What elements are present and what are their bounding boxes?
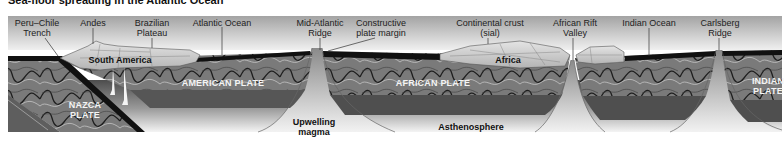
label-brazilian-plateau: Brazilian Plateau [135,18,170,38]
label-line: Mid-Atlantic [296,18,343,28]
label-line: Valley [553,28,597,38]
label-line: Continental crust [456,18,524,28]
label-line: Ridge [296,28,343,38]
label-constructive-plate-margin: Constructive plate margin [356,18,406,38]
label-line: Indian Ocean [622,18,676,28]
label-line: PLATE [752,86,784,96]
label-atlantic-ocean: Atlantic Ocean [193,18,252,28]
label-american-plate: AMERICAN PLATE [182,78,265,88]
label-upwelling-magma: Upwelling magma [293,117,336,137]
label-line: African Rift [553,18,597,28]
label-peru-chile-trench: Peru–Chile Trench [15,18,60,38]
label-line: Trench [15,28,60,38]
label-line: Constructive [356,18,406,28]
label-african-rift-valley: African Rift Valley [553,18,597,38]
label-indian-ocean: Indian Ocean [622,18,676,28]
label-andes: Andes [80,18,106,28]
label-line: Andes [80,18,106,28]
label-line: NAZCA [69,100,102,110]
diagram-title: Sea-floor spreading in the Atlantic Ocea… [8,0,223,6]
label-line: magma [293,127,336,137]
label-africa: Africa [495,55,521,65]
label-mid-atlantic-ridge: Mid-Atlantic Ridge [296,18,343,38]
label-line: Brazilian [135,18,170,28]
label-line: Atlantic Ocean [193,18,252,28]
label-line: PLATE [69,110,102,120]
label-line: (sial) [456,28,524,38]
label-carlsberg-ridge: Carlsberg Ridge [700,18,739,38]
label-line: Plateau [135,28,170,38]
label-line: Carlsberg [700,18,739,28]
label-line: Ridge [700,28,739,38]
label-asthenosphere: Asthenosphere [438,122,504,132]
label-continental-crust: Continental crust (sial) [456,18,524,38]
label-line: Upwelling [293,117,336,127]
label-line: plate margin [356,28,406,38]
label-line: INDIAN [752,76,784,86]
label-nazca-plate: NAZCA PLATE [69,100,102,120]
label-indian-plate: INDIAN PLATE [752,76,784,96]
label-line: Peru–Chile [15,18,60,28]
label-african-plate: AFRICAN PLATE [396,78,470,88]
label-south-america: South America [88,55,151,65]
